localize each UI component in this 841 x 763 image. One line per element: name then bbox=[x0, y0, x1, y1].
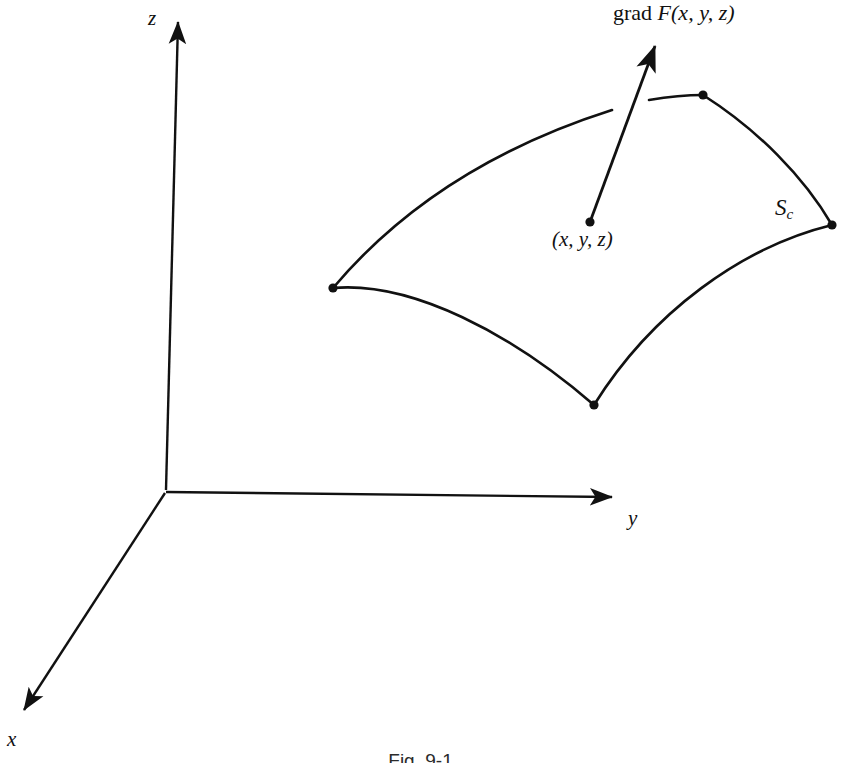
gradient-vector-shaft bbox=[590, 46, 655, 222]
surface-label: Sc bbox=[775, 196, 793, 221]
edge-bottom-left bbox=[333, 287, 594, 405]
edge-top-left-a bbox=[333, 110, 612, 288]
gradient-label-prefix: grad bbox=[613, 0, 658, 25]
corner-bottom-dot bbox=[589, 400, 598, 409]
gradient-vector-arrow bbox=[590, 46, 655, 222]
surface-point-dot bbox=[585, 217, 594, 226]
x-axis-line bbox=[24, 493, 165, 710]
corner-left-dot bbox=[328, 283, 337, 292]
gradient-vector-label: grad F(x, y, z) bbox=[613, 2, 735, 24]
corner-top-dot bbox=[698, 90, 707, 99]
z-axis-line bbox=[166, 22, 178, 490]
edge-bottom-right bbox=[594, 225, 832, 405]
axis-label-y: y bbox=[628, 508, 637, 529]
edge-top-left-b bbox=[649, 95, 703, 100]
axis-label-x: x bbox=[7, 729, 16, 750]
figure-svg bbox=[0, 0, 841, 763]
figure-container: z y x grad F(x, y, z) (x, y, z) Sc Fig. … bbox=[0, 0, 841, 763]
figure-caption: Fig. 9-1 bbox=[0, 750, 841, 763]
surface-label-letter: S bbox=[775, 195, 787, 220]
axis-label-z: z bbox=[148, 8, 156, 29]
surface-point-label: (x, y, z) bbox=[552, 229, 613, 250]
corner-right-dot bbox=[827, 220, 836, 229]
edge-top-right bbox=[703, 95, 832, 225]
coordinate-axes bbox=[24, 22, 612, 710]
surface-label-subscript: c bbox=[787, 205, 794, 222]
gradient-label-function: F bbox=[658, 0, 671, 25]
y-axis-line bbox=[166, 492, 612, 497]
surface-point-label-text: (x, y, z) bbox=[552, 227, 613, 251]
gradient-label-arguments: (x, y, z) bbox=[671, 0, 735, 25]
